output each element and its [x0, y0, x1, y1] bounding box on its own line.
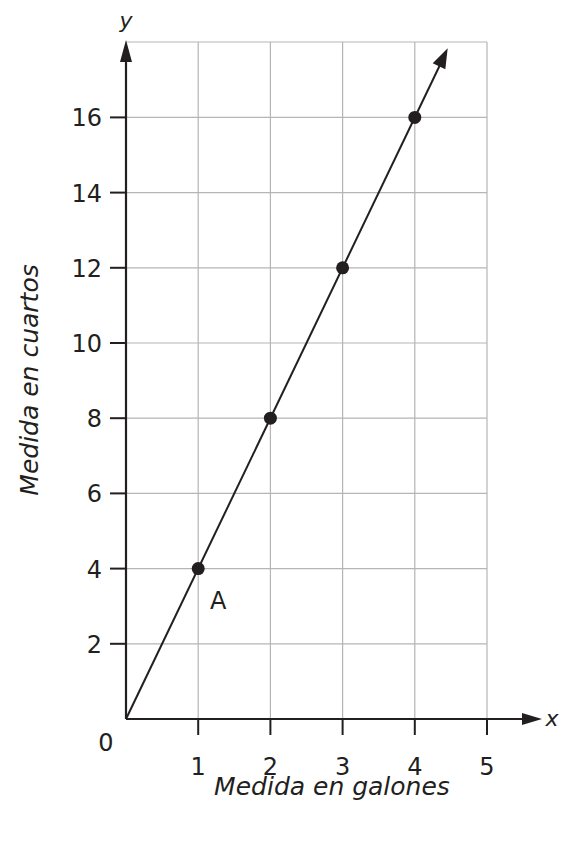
- series-line: [126, 57, 444, 719]
- data-point: [336, 261, 349, 274]
- x-tick-label: 5: [479, 753, 494, 781]
- arrow-icon: [433, 48, 448, 69]
- y-tick-label: 8: [87, 405, 102, 433]
- y-axis-variable: y: [118, 8, 133, 33]
- chart: 12345246810121416A Medida en cuartos Med…: [0, 0, 567, 842]
- y-tick-label: 12: [71, 255, 102, 283]
- y-tick-label: 14: [71, 180, 102, 208]
- axes: [110, 40, 542, 735]
- data-point: [264, 412, 277, 425]
- origin-label: 0: [98, 729, 113, 757]
- point-label: A: [210, 587, 227, 615]
- y-tick-label: 6: [87, 480, 102, 508]
- y-tick-label: 2: [87, 631, 102, 659]
- x-tick-label: 1: [191, 753, 206, 781]
- grid-lines: [126, 42, 487, 719]
- data-point: [192, 562, 205, 575]
- y-tick-label: 10: [71, 330, 102, 358]
- tick-labels: 12345246810121416A: [71, 104, 494, 781]
- x-axis-variable: x: [544, 706, 559, 731]
- data-point: [408, 111, 421, 124]
- y-tick-label: 16: [71, 104, 102, 132]
- y-tick-label: 4: [87, 556, 102, 584]
- data-series: [126, 48, 448, 719]
- x-axis-label: Medida en galones: [214, 772, 450, 801]
- y-axis-label: Medida en cuartos: [15, 264, 44, 495]
